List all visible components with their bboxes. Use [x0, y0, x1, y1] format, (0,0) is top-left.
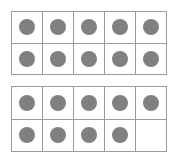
counter-dot: [112, 51, 128, 67]
counter-dot: [81, 95, 97, 111]
counter-dot: [19, 19, 35, 35]
counter-dot: [50, 95, 66, 111]
counter-dot: [19, 51, 35, 67]
ten-frame-cell[interactable]: [12, 87, 42, 119]
counter-dot: [50, 19, 66, 35]
ten-frame-cell[interactable]: [104, 87, 135, 119]
ten-frame-cell[interactable]: [12, 44, 42, 75]
top-ten-frame: [11, 11, 167, 75]
ten-frame-cell[interactable]: [104, 120, 135, 152]
ten-frame-cell[interactable]: [135, 44, 166, 75]
ten-frame-row: [12, 43, 166, 75]
bottom-ten-frame: [11, 86, 167, 152]
counter-dot: [81, 19, 97, 35]
counter-dot: [81, 51, 97, 67]
ten-frame-diagram: { "diagram": { "type": "ten-frames", "do…: [0, 0, 175, 165]
ten-frame-row: [12, 87, 166, 119]
counter-dot: [112, 95, 128, 111]
ten-frame-row: [12, 12, 166, 43]
ten-frame-cell[interactable]: [104, 12, 135, 43]
counter-dot: [19, 95, 35, 111]
ten-frame-cell[interactable]: [104, 44, 135, 75]
ten-frame-cell[interactable]: [42, 87, 73, 119]
counter-dot: [143, 95, 159, 111]
ten-frame-cell[interactable]: [135, 87, 166, 119]
counter-dot: [19, 127, 35, 143]
counter-dot: [112, 127, 128, 143]
counter-dot: [50, 127, 66, 143]
ten-frame-cell[interactable]: [135, 12, 166, 43]
counter-dot: [112, 19, 128, 35]
ten-frame-cell[interactable]: [42, 44, 73, 75]
counter-dot: [81, 127, 97, 143]
ten-frame-row: [12, 119, 166, 152]
ten-frame-cell[interactable]: [73, 87, 104, 119]
ten-frame-cell[interactable]: [42, 12, 73, 43]
counter-dot: [143, 19, 159, 35]
ten-frame-cell[interactable]: [73, 44, 104, 75]
ten-frame-cell[interactable]: [42, 120, 73, 152]
ten-frame-cell[interactable]: [73, 120, 104, 152]
ten-frame-cell-empty[interactable]: [135, 120, 166, 152]
counter-dot: [50, 51, 66, 67]
ten-frame-cell[interactable]: [73, 12, 104, 43]
ten-frame-cell[interactable]: [12, 12, 42, 43]
counter-dot: [143, 51, 159, 67]
ten-frame-cell[interactable]: [12, 120, 42, 152]
